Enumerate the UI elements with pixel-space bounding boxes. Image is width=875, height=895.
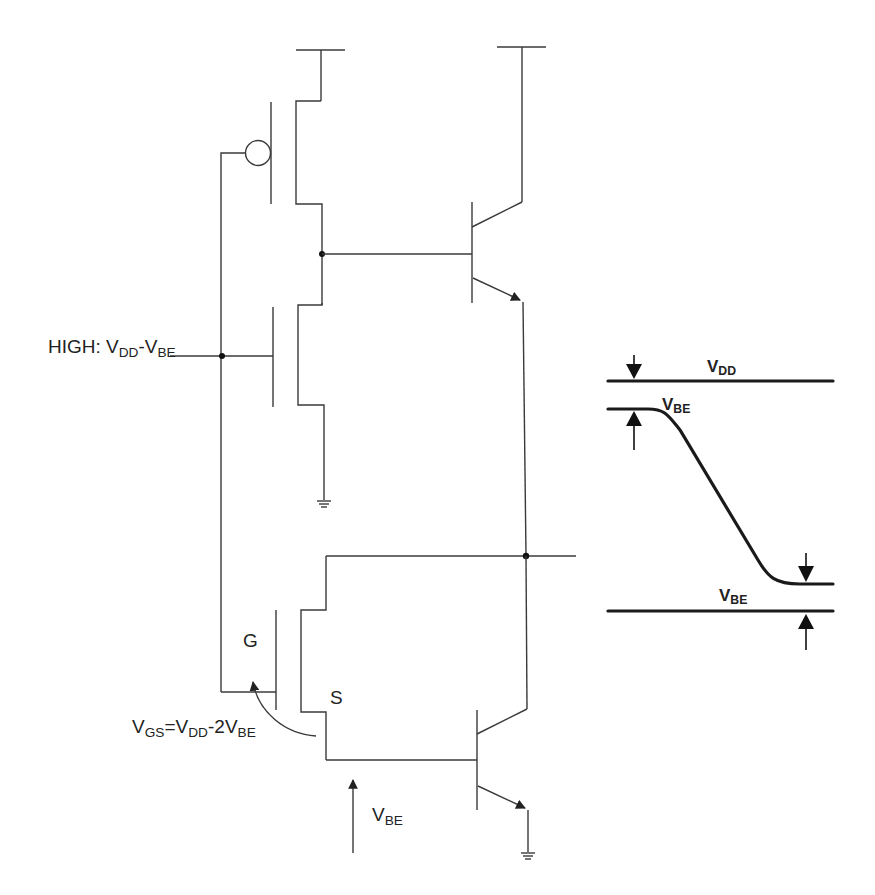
npn-bjt-upper xyxy=(472,202,526,556)
circuit-schematic xyxy=(0,0,875,895)
arrow-up-icon xyxy=(626,411,642,426)
source-label: S xyxy=(330,688,343,707)
inversion-bubble-icon xyxy=(246,141,271,166)
arrow-down-icon xyxy=(626,364,642,379)
npn-bjt-lower xyxy=(477,556,528,852)
arrow-up-icon-2 xyxy=(798,614,814,629)
output-transition-curve xyxy=(608,409,833,584)
ground-icon xyxy=(317,501,331,507)
vbe-lower-label: VBE xyxy=(719,587,747,607)
supply-rail-right xyxy=(497,47,546,202)
nmos-transistor-middle xyxy=(221,303,324,500)
ground-icon-bottom xyxy=(521,853,535,859)
vgs-arrow-icon xyxy=(253,682,316,736)
arrow-down-icon-2 xyxy=(798,566,814,582)
input-node xyxy=(219,353,225,359)
input-voltage-label: HIGH: VDD-VBE xyxy=(48,337,176,360)
vbe-upper-label: VBE xyxy=(662,396,690,416)
output-waveform xyxy=(608,381,833,611)
diagram-canvas: HIGH: VDD-VBE G S VGS=VDD-2VBE VBE VDD V… xyxy=(0,0,875,895)
vgs-label: VGS=VDD-2VBE xyxy=(132,717,256,740)
vdd-label: VDD xyxy=(707,358,736,378)
pmos-transistor xyxy=(221,101,322,692)
supply-rail-left xyxy=(296,50,345,101)
vbe-label: VBE xyxy=(372,805,403,828)
gate-label: G xyxy=(243,631,258,650)
